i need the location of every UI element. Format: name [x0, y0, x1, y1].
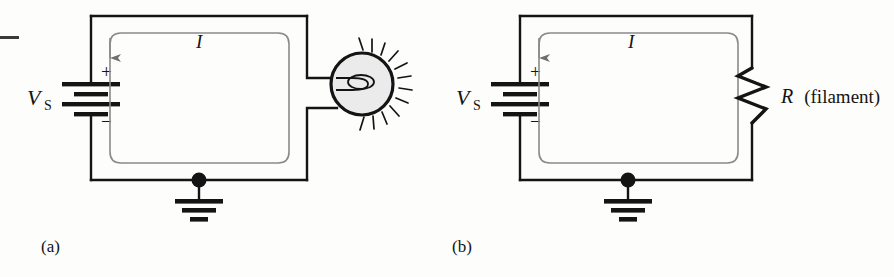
figure-canvas: V S + − I — [0, 0, 894, 277]
circuit-figure: V S + − I — [0, 0, 894, 277]
source-subscript-a: S — [44, 98, 52, 113]
resistor-label-b: R (filament) — [780, 85, 880, 108]
panel-caption-a: (a) — [41, 237, 60, 256]
current-loop-a — [110, 33, 289, 163]
current-label-b: I — [627, 31, 636, 52]
source-label-b: V — [456, 85, 472, 110]
resistor-label-symbol: R — [780, 85, 793, 107]
lamp-icon-a — [331, 38, 412, 130]
resistor-label-note: (filament) — [804, 86, 880, 108]
panel-b: V S + − I R (filament) — [452, 16, 880, 256]
resistor-symbol-b — [738, 68, 766, 123]
current-label-a: I — [195, 31, 204, 52]
current-loop-b — [539, 33, 738, 163]
circuit-a-wires — [91, 16, 337, 180]
edge-crop-mark — [0, 36, 19, 39]
panel-a: V S + − I — [27, 16, 412, 256]
circuit-b-wires — [520, 16, 752, 180]
source-subscript-b: S — [473, 98, 481, 113]
panel-caption-b: (b) — [452, 237, 472, 256]
source-label-a: V — [27, 85, 43, 110]
